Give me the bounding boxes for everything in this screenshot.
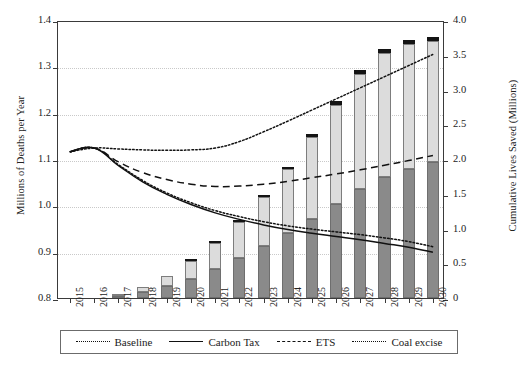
y-axis-right-tick-label: 1.5 bbox=[453, 188, 483, 199]
y-axis-right-tick-label: 2.0 bbox=[453, 153, 483, 164]
y-axis-left-tick-label: 1.0 bbox=[25, 199, 51, 210]
y-axis-left-tick-mark bbox=[53, 207, 58, 208]
x-axis-tick-label: 2029 bbox=[413, 273, 424, 307]
x-axis-tick-mark bbox=[312, 298, 313, 303]
legend-label: ETS bbox=[316, 336, 336, 348]
x-axis-tick-mark bbox=[360, 298, 361, 303]
x-axis-tick-mark bbox=[385, 298, 386, 303]
x-axis-tick-label: 2030 bbox=[437, 273, 448, 307]
y-axis-right-tick-mark bbox=[443, 92, 448, 93]
y-axis-left-tick-mark bbox=[53, 68, 58, 69]
x-axis-tick-mark bbox=[118, 298, 119, 303]
y-axis-right-title: Cumulative Lives Saved (Millions) bbox=[507, 66, 518, 246]
x-axis-tick-label: 2024 bbox=[292, 273, 303, 307]
legend-label: Carbon Tax bbox=[208, 336, 259, 348]
x-axis-tick-label: 2025 bbox=[316, 273, 327, 307]
x-axis-tick-mark bbox=[433, 298, 434, 303]
legend-item-coal-excise[interactable]: Coal excise bbox=[352, 336, 442, 348]
legend-swatch-solid-icon bbox=[169, 338, 203, 346]
y-axis-right-tick-mark bbox=[443, 161, 448, 162]
legend-swatch-dotted-icon bbox=[76, 338, 110, 346]
x-axis-tick-mark bbox=[94, 298, 95, 303]
y-axis-left-tick-mark bbox=[53, 161, 58, 162]
y-axis-right-tick-label: 3.5 bbox=[453, 49, 483, 60]
x-axis-tick-mark bbox=[336, 298, 337, 303]
y-axis-left-tick-mark bbox=[53, 254, 58, 255]
line-series-baseline bbox=[70, 54, 433, 151]
x-axis-tick-label: 2019 bbox=[171, 273, 182, 307]
legend-item-carbon-tax[interactable]: Carbon Tax bbox=[169, 336, 259, 348]
y-axis-left-tick-label: 0.8 bbox=[25, 292, 51, 303]
x-axis-tick-label: 2021 bbox=[219, 273, 230, 307]
chart-legend: BaselineCarbon TaxETSCoal excise bbox=[60, 330, 458, 354]
y-axis-left-tick-mark bbox=[53, 300, 58, 301]
y-axis-right-tick-label: 3.0 bbox=[453, 84, 483, 95]
line-series-ets bbox=[70, 147, 433, 186]
y-axis-right-tick-mark bbox=[443, 231, 448, 232]
x-axis-tick-mark bbox=[239, 298, 240, 303]
x-axis-tick-label: 2020 bbox=[195, 273, 206, 307]
x-axis-tick-mark bbox=[191, 298, 192, 303]
legend-label: Coal excise bbox=[391, 336, 442, 348]
line-series-group bbox=[58, 22, 445, 300]
x-axis-tick-label: 2027 bbox=[364, 273, 375, 307]
y-axis-left-tick-mark bbox=[53, 22, 58, 23]
legend-item-ets[interactable]: ETS bbox=[277, 336, 336, 348]
legend-swatch-dotted-icon bbox=[352, 338, 386, 346]
legend-item-baseline[interactable]: Baseline bbox=[76, 336, 153, 348]
x-axis-tick-mark bbox=[70, 298, 71, 303]
legend-label: Baseline bbox=[115, 336, 153, 348]
legend-swatch-dashed-icon bbox=[277, 338, 311, 346]
y-axis-right-tick-mark bbox=[443, 265, 448, 266]
x-axis-tick-label: 2028 bbox=[389, 273, 400, 307]
x-axis-tick-mark bbox=[409, 298, 410, 303]
y-axis-left-title: Millions of Deaths per Year bbox=[15, 76, 26, 236]
x-axis-tick-label: 2017 bbox=[122, 273, 133, 307]
x-axis-tick-mark bbox=[264, 298, 265, 303]
x-axis-tick-label: 2022 bbox=[243, 273, 254, 307]
figure-caption bbox=[8, 366, 268, 377]
y-axis-left-tick-label: 1.2 bbox=[25, 107, 51, 118]
x-axis-tick-label: 2016 bbox=[98, 273, 109, 307]
y-axis-left-tick-label: 1.1 bbox=[25, 153, 51, 164]
x-axis-tick-label: 2023 bbox=[268, 273, 279, 307]
x-axis-tick-label: 2018 bbox=[147, 273, 158, 307]
y-axis-right-tick-mark bbox=[443, 22, 448, 23]
y-axis-right-tick-mark bbox=[443, 126, 448, 127]
y-axis-left-tick-label: 1.3 bbox=[25, 60, 51, 71]
y-axis-right-tick-label: 0.5 bbox=[453, 257, 483, 268]
x-axis-tick-label: 2015 bbox=[74, 273, 85, 307]
y-axis-left-tick-label: 0.9 bbox=[25, 246, 51, 257]
x-axis-tick-mark bbox=[143, 298, 144, 303]
y-axis-right-tick-mark bbox=[443, 196, 448, 197]
x-axis-tick-mark bbox=[215, 298, 216, 303]
plot-area bbox=[57, 21, 444, 299]
chart-figure: Millions of Deaths per Year Cumulative L… bbox=[0, 0, 519, 377]
x-axis-tick-mark bbox=[288, 298, 289, 303]
y-axis-right-tick-label: 2.5 bbox=[453, 118, 483, 129]
x-axis-tick-mark bbox=[167, 298, 168, 303]
x-axis-tick-label: 2026 bbox=[340, 273, 351, 307]
y-axis-left-tick-label: 1.4 bbox=[25, 14, 51, 25]
y-axis-right-tick-mark bbox=[443, 57, 448, 58]
y-axis-right-tick-label: 4.0 bbox=[453, 14, 483, 25]
y-axis-right-tick-label: 0 bbox=[453, 292, 483, 303]
line-series-coal-excise bbox=[70, 147, 433, 246]
y-axis-left-tick-mark bbox=[53, 115, 58, 116]
y-axis-right-tick-label: 1.0 bbox=[453, 223, 483, 234]
